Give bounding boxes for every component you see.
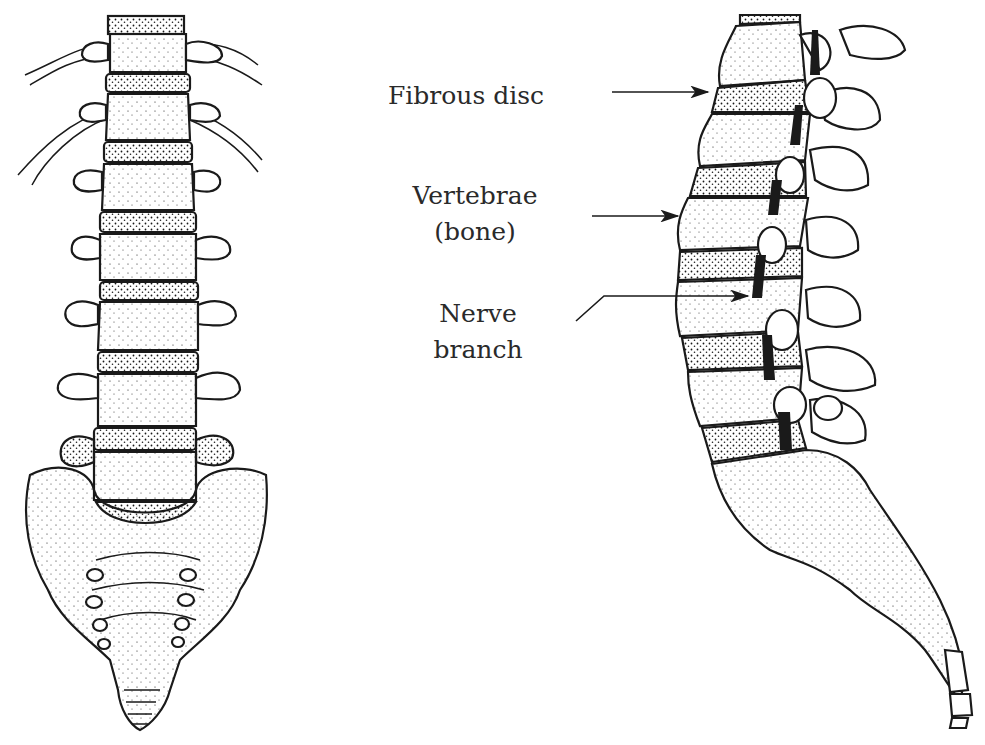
vertebrae-label: Vertebrae (bone) [405, 178, 545, 250]
fibrous-disc-text: Fibrous disc [388, 81, 544, 110]
front-spine-view [18, 16, 267, 730]
nerve-branch-label: Nerve branch [418, 296, 538, 368]
vertebrae-text-line2: (bone) [405, 214, 545, 250]
nerve-text-line2: branch [418, 332, 538, 368]
nerve-text-line1: Nerve [418, 296, 538, 332]
side-spine-view [676, 15, 972, 728]
vertebrae-text-line1: Vertebrae [405, 178, 545, 214]
fibrous-disc-label: Fibrous disc [388, 78, 544, 114]
